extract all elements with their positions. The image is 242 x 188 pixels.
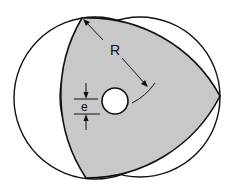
radius-label: R bbox=[110, 42, 120, 58]
shaft-hole bbox=[102, 88, 128, 114]
rotor-diagram: R e bbox=[0, 0, 242, 188]
eccentricity-label: e bbox=[81, 100, 88, 114]
